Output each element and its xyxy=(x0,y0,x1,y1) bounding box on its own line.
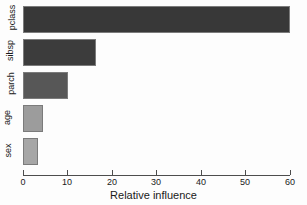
bar-sex xyxy=(23,138,38,165)
y-axis-label-pclass: pclass xyxy=(0,13,16,22)
x-axis-ticklabel-20: 20 xyxy=(107,177,117,187)
x-axis-tick-40 xyxy=(201,170,202,175)
y-axis-label-parch: parch xyxy=(0,79,16,88)
x-axis-ticklabel-60: 60 xyxy=(285,177,295,187)
x-axis-tick-10 xyxy=(67,170,68,175)
x-axis-tick-60 xyxy=(290,170,291,175)
x-axis-line xyxy=(23,175,290,176)
relative-influence-bar-chart: pclass sibsp parch age sex 0 10 20 30 40… xyxy=(0,0,307,205)
y-axis-label-pclass-text: pclass xyxy=(8,5,17,31)
x-axis-ticklabel-30: 30 xyxy=(151,177,161,187)
y-axis-label-age: age xyxy=(0,113,16,122)
x-axis-ticklabel-50: 50 xyxy=(240,177,250,187)
x-axis-tick-20 xyxy=(112,170,113,175)
x-axis-title: Relative influence xyxy=(0,189,307,201)
y-axis-label-parch-text: parch xyxy=(7,72,16,95)
x-axis-tick-0 xyxy=(23,170,24,175)
y-axis-label-sex-text: sex xyxy=(3,143,12,157)
y-axis-label-sibsp-text: sibsp xyxy=(6,40,15,61)
x-axis-tick-30 xyxy=(156,170,157,175)
x-axis-ticklabel-40: 40 xyxy=(196,177,206,187)
y-axis-label-sibsp: sibsp xyxy=(0,46,16,55)
x-axis-ticklabel-0: 0 xyxy=(20,177,25,187)
bar-pclass xyxy=(23,6,290,33)
bar-sibsp xyxy=(23,39,96,66)
y-axis-label-age-text: age xyxy=(4,110,13,125)
bar-age xyxy=(23,105,43,132)
plot-area xyxy=(23,4,290,170)
x-axis-tick-50 xyxy=(245,170,246,175)
x-axis-ticklabel-10: 10 xyxy=(62,177,72,187)
y-axis-label-sex: sex xyxy=(0,146,16,155)
bar-parch xyxy=(23,72,68,99)
